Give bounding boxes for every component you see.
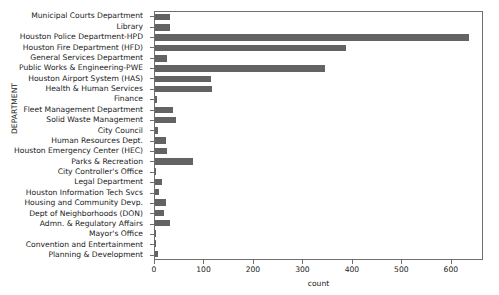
bar bbox=[155, 107, 173, 114]
x-axis-tick-mark bbox=[401, 260, 402, 264]
y-axis-tick-mark bbox=[150, 203, 154, 204]
y-axis-tick-label: Convention and Entertainment bbox=[0, 239, 150, 249]
bar bbox=[155, 168, 156, 175]
y-axis-tick-label: Houston Police Department-HPD bbox=[0, 32, 150, 42]
bar-row bbox=[155, 125, 482, 135]
y-axis-tick-mark bbox=[150, 193, 154, 194]
x-axis-title: count bbox=[154, 279, 483, 288]
y-axis-tick-mark bbox=[150, 110, 154, 111]
y-axis-tick-label: Planning & Development bbox=[0, 250, 150, 260]
y-axis-tick-label-text: Solid Waste Management bbox=[46, 116, 143, 124]
y-axis-tick-label-text: City Council bbox=[98, 127, 143, 135]
bar bbox=[155, 199, 166, 206]
y-axis-tick-label: Human Resources Dept. bbox=[0, 136, 150, 146]
y-axis-tick-label: Dept of Neighborhoods (DON) bbox=[0, 208, 150, 218]
bar-row bbox=[155, 228, 482, 238]
bar bbox=[155, 210, 164, 217]
bar bbox=[155, 179, 162, 186]
x-axis-tick-label: 400 bbox=[345, 265, 360, 274]
y-axis-tick-label-text: Parks & Recreation bbox=[71, 158, 143, 166]
bar-row bbox=[155, 177, 482, 187]
bar bbox=[155, 230, 156, 237]
bar-row bbox=[155, 84, 482, 94]
y-axis-tick-label-text: Admn. & Regulatory Affairs bbox=[40, 220, 143, 228]
bar-series bbox=[155, 12, 482, 259]
y-axis-tick-label-text: Fleet Management Department bbox=[23, 106, 143, 114]
y-axis-tick-label: Houston Airport System (HAS) bbox=[0, 73, 150, 83]
bar bbox=[155, 96, 157, 103]
bar-row bbox=[155, 22, 482, 32]
y-axis-tick-mark bbox=[150, 37, 154, 38]
y-axis-tick-mark bbox=[150, 47, 154, 48]
bar bbox=[155, 45, 346, 52]
y-axis-tick-label-text: Municipal Courts Department bbox=[31, 12, 143, 20]
y-axis-tick-mark bbox=[150, 244, 154, 245]
y-axis-tick-label-text: Houston Police Department-HPD bbox=[20, 33, 143, 41]
y-axis-tick-label-text: General Services Department bbox=[30, 54, 143, 62]
y-axis-tick-mark bbox=[150, 255, 154, 256]
y-axis-tick-label-text: Housing and Community Devp. bbox=[24, 199, 143, 207]
y-axis-tick-label: Legal Department bbox=[0, 177, 150, 187]
bar-row bbox=[155, 218, 482, 228]
y-axis-tick-mark bbox=[150, 68, 154, 69]
bar bbox=[155, 148, 167, 155]
bar-chart: DEPARTMENT Municipal Courts DepartmentLi… bbox=[0, 0, 499, 295]
bar-row bbox=[155, 105, 482, 115]
bar bbox=[155, 117, 176, 124]
x-axis-tick-mark bbox=[203, 260, 204, 264]
y-axis-tick-mark bbox=[150, 141, 154, 142]
y-axis-tick-mark bbox=[150, 99, 154, 100]
y-axis-tick-label-text: Legal Department bbox=[74, 178, 143, 186]
y-axis-tick-label: General Services Department bbox=[0, 53, 150, 63]
y-axis-tick-label: Solid Waste Management bbox=[0, 115, 150, 125]
y-axis-tick-mark bbox=[150, 89, 154, 90]
y-axis-tick-mark bbox=[150, 151, 154, 152]
y-axis-tick-mark bbox=[150, 58, 154, 59]
y-axis-tick-label: Admn. & Regulatory Affairs bbox=[0, 219, 150, 229]
x-axis-tick-mark bbox=[352, 260, 353, 264]
y-axis-tick-label: Library bbox=[0, 21, 150, 31]
y-axis-tick-mark bbox=[150, 172, 154, 173]
y-axis-tick-label-text: Houston Information Tech Svcs bbox=[26, 189, 143, 197]
y-axis-tick-mark bbox=[150, 130, 154, 131]
y-axis-tick-label: City Controller's Office bbox=[0, 167, 150, 177]
bar bbox=[155, 220, 170, 227]
y-axis-tick-label-text: Dept of Neighborhoods (DON) bbox=[29, 210, 143, 218]
x-axis-tick-mark bbox=[451, 260, 452, 264]
bar-row bbox=[155, 136, 482, 146]
y-axis-tick-label-text: Houston Emergency Center (HEC) bbox=[14, 147, 143, 155]
y-axis-tick-mark bbox=[150, 182, 154, 183]
y-axis-tick-mark bbox=[150, 27, 154, 28]
bar-row bbox=[155, 187, 482, 197]
x-axis-tick-mark bbox=[154, 260, 155, 264]
x-axis-tick-mark bbox=[253, 260, 254, 264]
bar-row bbox=[155, 12, 482, 22]
plot-area bbox=[154, 11, 483, 260]
x-axis-tick-mark bbox=[302, 260, 303, 264]
bar-row bbox=[155, 146, 482, 156]
bar-row bbox=[155, 43, 482, 53]
bar-row bbox=[155, 33, 482, 43]
y-axis-tick-label-text: Health & Human Services bbox=[45, 85, 143, 93]
x-axis-tick-label: 200 bbox=[246, 265, 261, 274]
y-axis-tick-label: Houston Information Tech Svcs bbox=[0, 187, 150, 197]
x-axis-tick-label: 0 bbox=[152, 265, 157, 274]
y-axis-tick-label-text: Houston Fire Department (HFD) bbox=[23, 44, 143, 52]
bar bbox=[155, 158, 193, 165]
bar-row bbox=[155, 156, 482, 166]
y-axis-tick-label-text: Houston Airport System (HAS) bbox=[28, 75, 143, 83]
y-axis-tick-mark bbox=[150, 161, 154, 162]
bar bbox=[155, 76, 211, 83]
bar-row bbox=[155, 115, 482, 125]
bar-row bbox=[155, 197, 482, 207]
y-axis-tick-label: Housing and Community Devp. bbox=[0, 198, 150, 208]
bar bbox=[155, 127, 158, 134]
y-axis-tick-mark bbox=[150, 78, 154, 79]
y-axis-tick-label: Health & Human Services bbox=[0, 84, 150, 94]
y-axis-tick-label: Houston Fire Department (HFD) bbox=[0, 42, 150, 52]
y-axis-tick-label-text: Library bbox=[116, 23, 143, 31]
bar-row bbox=[155, 63, 482, 73]
y-axis-tick-label: Houston Emergency Center (HEC) bbox=[0, 146, 150, 156]
y-axis-tick-labels: Municipal Courts DepartmentLibraryHousto… bbox=[0, 11, 150, 260]
bar bbox=[155, 251, 158, 258]
